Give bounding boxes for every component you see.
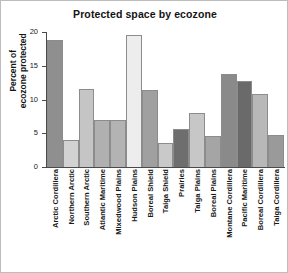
bar — [205, 136, 221, 167]
bar — [158, 143, 174, 167]
bar — [94, 120, 110, 167]
x-tick-label: Taiga Cordillera — [273, 169, 281, 226]
x-tick-label: Atlantic Maritime — [99, 169, 107, 230]
x-tick-label: Taiga Shield — [162, 169, 170, 213]
x-tick-label: Montane Cordillera — [226, 169, 234, 238]
chart-title: Protected space by ecozone — [1, 8, 288, 20]
y-tick-label: 10 — [16, 96, 38, 104]
x-label-slot: Arctic Cordillera — [47, 169, 63, 269]
y-axis-title-line-1: Percent of — [8, 50, 18, 92]
x-label-slot: Hudson Plains — [126, 169, 142, 269]
x-label-slot: Montane Cordillera — [221, 169, 237, 269]
bar — [142, 90, 158, 167]
bar-series — [47, 32, 284, 167]
bar — [252, 94, 268, 167]
x-tick-label: Northern Arctic — [68, 169, 76, 224]
x-tick-label: Southern Arctic — [83, 169, 91, 226]
plot-area — [47, 32, 284, 167]
bar — [237, 81, 253, 167]
bar — [221, 74, 237, 167]
x-axis-labels: Arctic CordilleraNorthern ArcticSouthern… — [47, 169, 284, 269]
x-label-slot: Pacific Maritime — [237, 169, 253, 269]
x-tick-label: Prairies — [178, 169, 186, 197]
y-tick-mark — [42, 167, 47, 168]
x-tick-label: Boreal Cordillera — [257, 169, 265, 230]
bar — [63, 140, 79, 167]
y-tick-label: 5 — [16, 129, 38, 137]
bar — [173, 129, 189, 167]
x-label-slot: Boreal Plains — [205, 169, 221, 269]
x-tick-label: Boreal Shield — [147, 169, 155, 218]
x-axis-line — [46, 167, 285, 168]
bar — [126, 35, 142, 167]
y-tick-label: 0 — [16, 163, 38, 171]
x-tick-label: Boreal Plains — [210, 169, 218, 217]
x-tick-label: Pacific Maritime — [241, 169, 249, 227]
x-tick-label: Mixedwood Plains — [115, 169, 123, 235]
bar — [47, 40, 63, 167]
bar — [79, 89, 95, 167]
x-label-slot: Taiga Plains — [189, 169, 205, 269]
x-label-slot: Northern Arctic — [63, 169, 79, 269]
chart-figure: Protected space by ecozone Percent of ec… — [0, 0, 288, 273]
x-label-slot: Boreal Shield — [142, 169, 158, 269]
x-tick-label: Taiga Plains — [194, 169, 202, 213]
x-label-slot: Taiga Shield — [158, 169, 174, 269]
y-tick-label: 20 — [16, 28, 38, 36]
bar — [268, 135, 284, 167]
x-tick-label: Arctic Cordillera — [52, 169, 60, 228]
x-label-slot: Boreal Cordillera — [252, 169, 268, 269]
x-label-slot: Mixedwood Plains — [110, 169, 126, 269]
x-tick-label: Hudson Plains — [131, 169, 139, 222]
bar — [110, 120, 126, 167]
y-tick-label: 15 — [16, 62, 38, 70]
x-label-slot: Atlantic Maritime — [94, 169, 110, 269]
x-label-slot: Taiga Cordillera — [268, 169, 284, 269]
x-label-slot: Prairies — [173, 169, 189, 269]
bar — [189, 113, 205, 167]
x-label-slot: Southern Arctic — [79, 169, 95, 269]
